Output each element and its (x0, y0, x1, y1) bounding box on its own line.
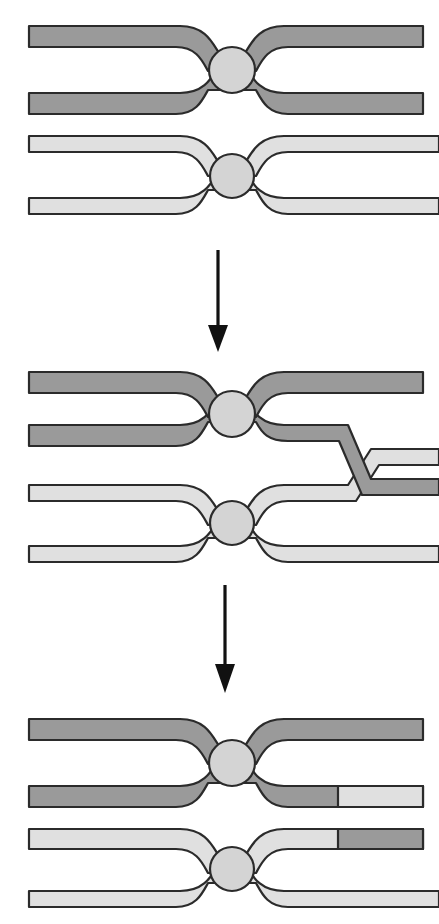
centromere-dark-2 (209, 391, 255, 437)
crossing-over-figure: Chromosome crossing over and recombinati… (0, 0, 439, 924)
centromere-dark-1 (209, 47, 255, 93)
light-3-recombinant-tip (338, 829, 423, 849)
centromere-light-1 (210, 154, 254, 198)
centromere-light-3 (210, 847, 254, 891)
figure-canvas (0, 0, 439, 924)
centromere-dark-3 (209, 740, 255, 786)
centromere-light-2 (210, 501, 254, 545)
dark-3-recombinant-tip (338, 786, 423, 807)
